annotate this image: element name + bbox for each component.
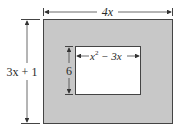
inner-height-label: 6	[66, 64, 72, 78]
height-dimension: 3x + 1	[7, 20, 40, 124]
frame-diagram: 4x 3x + 1 6 x2 − 3x	[0, 0, 182, 133]
height-label: 3x + 1	[7, 65, 38, 79]
width-label: 4x	[102, 5, 114, 19]
width-dimension: 4x	[44, 5, 173, 19]
inner-width-label: x2 − 3x	[89, 49, 122, 62]
